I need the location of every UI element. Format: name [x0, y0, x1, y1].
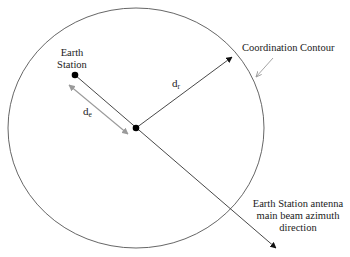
de-label-sub: e: [89, 110, 93, 119]
contour-pointer-arrow: [256, 58, 273, 77]
earth-station-dot: [72, 72, 79, 79]
main-beam-azimuth-arrow: [75, 75, 276, 248]
coordination-contour-label: Coordination Contour: [242, 42, 335, 53]
beam-direction-label-line2: main beam azimuth: [257, 210, 341, 221]
earth-station-label-line2: Station: [57, 59, 88, 70]
de-label: de: [83, 105, 93, 119]
dr-radius-arrow: [136, 57, 232, 128]
de-distance-arrow: [69, 85, 128, 134]
beam-direction-label-line3: direction: [279, 222, 317, 233]
dr-label-sub: r: [178, 82, 181, 91]
earth-station-label-line1: Earth: [61, 47, 84, 58]
beam-direction-label-line1: Earth Station antenna: [253, 198, 344, 209]
dr-label: dr: [172, 77, 181, 91]
coordination-contour-diagram: Earth Station de dr Coordination Contour…: [0, 0, 350, 257]
center-point-dot: [133, 125, 140, 132]
